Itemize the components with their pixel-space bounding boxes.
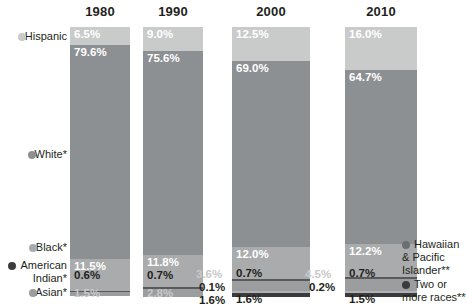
legend-dot-black — [29, 244, 37, 252]
legend-label-two-or-more-line2: more races** — [402, 291, 466, 303]
label-2000-two-or-more-inbar: 1.6% — [236, 293, 262, 305]
label-2000-two-or-more: 1.6% — [199, 294, 225, 306]
bar-1990: 9.0% 75.6% 11.8% — [143, 27, 203, 297]
legend-dot-white — [28, 151, 36, 159]
legend-label-two-or-more-line1: Two or — [414, 278, 447, 290]
label-2010-american-indian: 0.7% — [349, 267, 375, 279]
legend-label-white: White* — [35, 148, 67, 160]
label-2010-asian: 4.5% — [305, 268, 331, 280]
segment-label: 12.2% — [349, 245, 382, 257]
segment-1980-hispanic: 6.5% — [70, 27, 130, 45]
legend-dot-hawaiian-pacific — [402, 241, 410, 249]
legend-label-hawaiian-pacific-line3: Islander** — [402, 264, 450, 276]
label-1990-asian: 2.8% — [147, 287, 173, 299]
legend-label-american-indian-line2: Indian* — [33, 272, 67, 284]
segment-label: 9.0% — [147, 28, 173, 40]
label-2000-asian: 3.6% — [196, 268, 222, 280]
legend-dot-american-indian — [8, 262, 16, 270]
legend-item-hawaiian-pacific[interactable]: Hawaiian — [414, 237, 459, 251]
segment-1990-white: 75.6% — [143, 51, 203, 255]
segment-label: 6.5% — [74, 28, 100, 40]
segment-label: 79.6% — [74, 46, 107, 58]
legend-label-hawaiian-pacific-line1: Hawaiian — [414, 238, 459, 250]
legend-item-hispanic[interactable]: Hispanic — [0, 29, 67, 43]
legend-label-asian: Asian* — [35, 286, 67, 298]
label-2010-two-or-more: 1.5% — [349, 293, 375, 305]
legend-dot-hispanic — [18, 33, 26, 41]
label-2000-hawaiian-pacific: 0.1% — [199, 281, 225, 293]
legend-label-hawaiian-pacific-line2: & Pacific — [402, 251, 445, 263]
legend-item-hawaiian-pacific-line2: & Pacific — [402, 250, 445, 264]
segment-2000-white: 69.0% — [232, 61, 310, 247]
segment-2010-white: 64.7% — [345, 70, 417, 244]
legend-dot-two-or-more — [402, 281, 410, 289]
legend-item-two-or-more[interactable]: Two or — [414, 277, 447, 291]
label-1980-american-indian: 0.6% — [74, 269, 100, 281]
segment-2000-asian — [232, 281, 310, 291]
segment-label: 11.8% — [147, 256, 179, 268]
legend-label-hispanic: Hispanic — [25, 30, 67, 42]
year-label-1990: 1990 — [143, 4, 203, 19]
segment-label: 75.6% — [147, 52, 180, 64]
legend-item-two-or-more-line2: more races** — [402, 290, 466, 304]
segment-label: 12.5% — [236, 28, 269, 40]
label-2000-american-indian: 0.7% — [236, 267, 262, 279]
label-1990-american-indian: 0.7% — [147, 269, 173, 281]
stacked-bar-chart: 1980 1990 2000 2010 6.5% 79.6% 11.5% 0.6… — [0, 0, 466, 307]
legend-label-black: Black* — [36, 241, 67, 253]
legend-item-american-indian-line2: Indian* — [0, 271, 67, 285]
year-label-2010: 2010 — [345, 4, 417, 19]
segment-2010-hispanic: 16.0% — [345, 27, 417, 70]
year-label-1980: 1980 — [70, 4, 130, 19]
label-1980-asian: 1.5% — [74, 287, 100, 299]
label-2010-hawaiian-pacific: 0.2% — [309, 281, 335, 293]
legend-label-american-indian-line1: American — [21, 259, 67, 271]
segment-label: 69.0% — [236, 62, 269, 74]
segment-1980-white: 79.6% — [70, 45, 130, 260]
segment-1990-hispanic: 9.0% — [143, 27, 203, 51]
segment-label: 12.0% — [236, 248, 269, 260]
bar-2000: 12.5% 69.0% 12.0% — [232, 27, 310, 297]
legend-dot-asian — [29, 289, 37, 297]
legend-item-hawaiian-pacific-line3: Islander** — [402, 263, 450, 277]
segment-2000-hispanic: 12.5% — [232, 27, 310, 61]
segment-label: 64.7% — [349, 71, 382, 83]
segment-label: 16.0% — [349, 28, 382, 40]
bar-1980: 6.5% 79.6% 11.5% — [70, 27, 130, 297]
year-label-2000: 2000 — [232, 4, 310, 19]
